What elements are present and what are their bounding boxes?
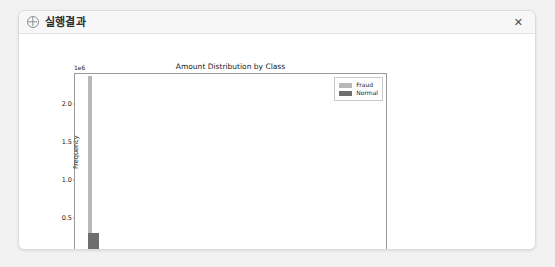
close-icon[interactable]: ✕ bbox=[511, 15, 526, 30]
matplotlib-figure: Amount Distribution by Class 1e6 Frequen… bbox=[19, 34, 535, 250]
bar-fraud bbox=[88, 76, 92, 250]
y-tick-mark bbox=[73, 142, 76, 143]
legend-item: Normal bbox=[339, 89, 378, 97]
execution-result-window: 실행결과 ✕ Amount Distribution by Class 1e6 … bbox=[18, 10, 536, 250]
y-tick-mark bbox=[73, 218, 76, 219]
bar-normal bbox=[88, 233, 99, 250]
legend-item: Fraud bbox=[339, 81, 378, 89]
legend-label: Fraud bbox=[356, 82, 373, 88]
window-titlebar: 실행결과 ✕ bbox=[19, 11, 535, 34]
legend-label: Normal bbox=[356, 90, 378, 96]
window-body: Amount Distribution by Class 1e6 Frequen… bbox=[19, 34, 535, 250]
y-tick-label: 2.0 bbox=[62, 100, 72, 108]
legend-swatch-normal bbox=[339, 91, 352, 96]
y-tick-label: 1.0 bbox=[62, 176, 72, 184]
chart-legend: FraudNormal bbox=[334, 77, 383, 101]
chart-title: Amount Distribution by Class bbox=[74, 62, 387, 71]
y-tick-mark bbox=[73, 180, 76, 181]
compass-circle-icon bbox=[27, 16, 39, 28]
y-tick-label: 1.5 bbox=[62, 138, 72, 146]
legend-swatch-fraud bbox=[339, 83, 352, 88]
y-axis-label: Frequency bbox=[72, 135, 80, 169]
y-axis-exponent-label: 1e6 bbox=[74, 64, 85, 71]
window-title: 실행결과 bbox=[45, 17, 86, 28]
y-tick-mark bbox=[73, 104, 76, 105]
y-tick-label: 0.5 bbox=[62, 214, 72, 222]
screen-root: 실행결과 ✕ Amount Distribution by Class 1e6 … bbox=[0, 0, 555, 267]
plot-area: Frequency Transaction Amount 0.00.51.01.… bbox=[74, 73, 387, 250]
